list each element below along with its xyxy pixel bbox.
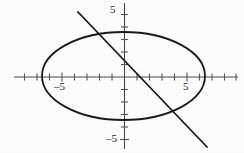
coordinate-plane-svg [0,0,244,153]
ellipse-curve [42,32,205,120]
y-axis-label-negative-five: –5 [106,133,117,144]
y-axis-label-positive-five: 5 [110,4,116,15]
x-axis-label-positive-five: 5 [183,81,189,92]
graph-figure: –5 5 5 –5 [0,0,244,153]
x-axis-label-negative-five: –5 [54,81,65,92]
